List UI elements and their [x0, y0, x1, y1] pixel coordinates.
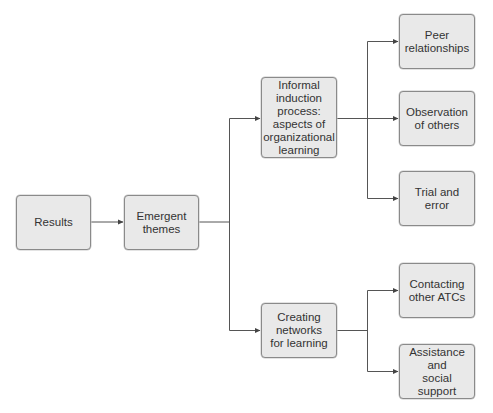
node-observation-of-others: Observation of others — [399, 91, 475, 146]
node-trial-and-error: Trial and error — [399, 171, 475, 226]
flowchart-canvas: Results Emergent themes Informal inducti… — [0, 0, 493, 413]
node-creating-networks: Creating networks for learning — [261, 303, 337, 358]
node-contacting-atcs: Contacting other ATCs — [399, 263, 475, 318]
node-informal-induction: Informal induction process: aspects of o… — [261, 77, 337, 158]
node-results: Results — [16, 195, 91, 250]
node-peer-relationships: Peer relationships — [399, 14, 475, 69]
node-emergent-themes: Emergent themes — [124, 195, 199, 250]
node-assistance-social-support: Assistance and social support — [399, 344, 475, 399]
